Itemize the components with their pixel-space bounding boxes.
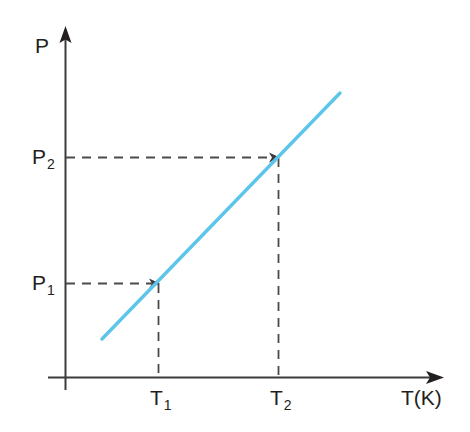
x-tick-label-t2: T2 xyxy=(270,387,291,408)
x-axis-label: T(K) xyxy=(401,387,442,408)
x-tick-label-t1: T1 xyxy=(150,387,171,408)
y-tick-label-p2: P2 xyxy=(32,146,54,167)
y-tick-label-p1: P1 xyxy=(32,272,54,293)
guide-p2-horizontal xyxy=(66,153,280,163)
y-axis-label: P xyxy=(35,35,49,56)
pressure-temperature-graph: P P2 P1 T1 T2 T(K) xyxy=(0,0,470,432)
plot-canvas xyxy=(0,0,470,432)
guide-p1-horizontal xyxy=(66,279,160,289)
x-axis xyxy=(48,371,444,384)
data-line-p-vs-t xyxy=(102,93,340,339)
y-axis xyxy=(60,26,72,390)
